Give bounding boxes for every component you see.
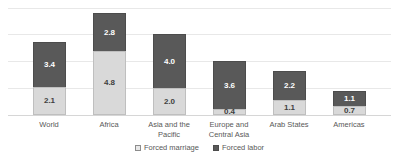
category-label-asia-and-the-pacific: Asia and the Pacific bbox=[137, 120, 201, 140]
bar-value-forced-marriage: 2.0 bbox=[164, 98, 175, 106]
bar-value-forced-labor: 1.1 bbox=[344, 95, 355, 103]
bar-value-forced-marriage: 0.4 bbox=[224, 108, 235, 116]
bar-segment-forced-labor[interactable]: 1.1 bbox=[333, 91, 366, 106]
bar-segment-forced-marriage[interactable]: 4.8 bbox=[93, 51, 126, 115]
bar-segment-forced-marriage[interactable]: 0.7 bbox=[333, 106, 366, 115]
stacked-bar-chart: 3.4 2.1 2.8 4.8 4.0 2.0 bbox=[0, 0, 399, 160]
bar-segment-forced-marriage[interactable]: 1.1 bbox=[273, 100, 306, 115]
bar-segment-forced-marriage[interactable]: 2.1 bbox=[33, 87, 66, 115]
category-label-world: World bbox=[17, 120, 81, 130]
bar-group-arab-states[interactable]: 2.2 1.1 bbox=[273, 71, 306, 115]
legend-label: Forced labor bbox=[222, 143, 264, 152]
gridline-6 bbox=[8, 34, 391, 35]
bar-value-forced-labor: 3.4 bbox=[44, 61, 55, 69]
legend-swatch-icon bbox=[135, 145, 141, 151]
chart-legend: Forced marriage Forced labor bbox=[0, 143, 399, 152]
bar-value-forced-marriage: 0.7 bbox=[344, 107, 355, 115]
bar-segment-forced-labor[interactable]: 3.4 bbox=[33, 42, 66, 87]
bar-segment-forced-labor[interactable]: 3.6 bbox=[213, 61, 246, 109]
bar-value-forced-labor: 2.2 bbox=[284, 82, 295, 90]
bar-value-forced-marriage: 4.8 bbox=[104, 79, 115, 87]
bar-group-asia-and-the-pacific[interactable]: 4.0 2.0 bbox=[153, 34, 186, 115]
plot-area: 3.4 2.1 2.8 4.8 4.0 2.0 bbox=[0, 0, 399, 116]
category-label-africa: Africa bbox=[77, 120, 141, 130]
bar-segment-forced-marriage[interactable]: 2.0 bbox=[153, 88, 186, 115]
bar-value-forced-marriage: 2.1 bbox=[44, 97, 55, 105]
category-label-americas: Americas bbox=[317, 120, 381, 130]
legend-label: Forced marriage bbox=[144, 143, 199, 152]
bar-value-forced-labor: 3.6 bbox=[224, 82, 235, 90]
bar-segment-forced-labor[interactable]: 2.8 bbox=[93, 13, 126, 51]
category-label-europe-and-central-asia: Europe and Central Asia bbox=[197, 120, 261, 140]
bar-segment-forced-labor[interactable]: 4.0 bbox=[153, 34, 186, 88]
bar-group-americas[interactable]: 1.1 0.7 bbox=[333, 91, 366, 115]
legend-item-forced-marriage[interactable]: Forced marriage bbox=[135, 143, 199, 152]
bar-value-forced-labor: 4.0 bbox=[164, 58, 175, 66]
bar-value-forced-marriage: 1.1 bbox=[284, 104, 295, 112]
category-label-arab-states: Arab States bbox=[257, 120, 321, 130]
bar-value-forced-labor: 2.8 bbox=[104, 29, 115, 37]
bar-group-europe-and-central-asia[interactable]: 3.6 0.4 bbox=[213, 61, 246, 115]
bar-group-africa[interactable]: 2.8 4.8 bbox=[93, 13, 126, 115]
axis-baseline bbox=[8, 115, 391, 116]
gridline-8 bbox=[8, 8, 391, 9]
bar-group-world[interactable]: 3.4 2.1 bbox=[33, 42, 66, 115]
bar-segment-forced-labor[interactable]: 2.2 bbox=[273, 71, 306, 100]
legend-swatch-icon bbox=[213, 145, 219, 151]
bar-segment-forced-marriage[interactable]: 0.4 bbox=[213, 109, 246, 115]
legend-item-forced-labor[interactable]: Forced labor bbox=[213, 143, 264, 152]
